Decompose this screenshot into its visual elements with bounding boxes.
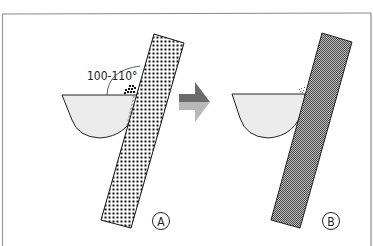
- panel-a-label: A: [157, 215, 165, 229]
- angle-label: 100-110°: [87, 69, 138, 83]
- panel-a: 100-110° A: [62, 34, 184, 230]
- debris-cluster-a: [124, 85, 136, 94]
- wetting-angle-diagram: 100-110° A B: [0, 0, 373, 246]
- arrow-right-icon: [179, 82, 210, 122]
- bowl-b: [232, 94, 305, 138]
- panel-b-label: B: [327, 215, 334, 229]
- debris-flecks-b: [299, 87, 305, 93]
- panel-b: B: [232, 33, 352, 230]
